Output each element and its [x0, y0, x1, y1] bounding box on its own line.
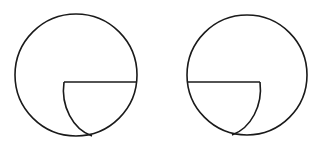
left-figure	[15, 14, 137, 136]
right-figure	[187, 15, 307, 135]
outer-circle	[187, 15, 307, 135]
inner-arc	[63, 82, 92, 136]
diagram-canvas	[0, 0, 323, 144]
outer-circle	[15, 14, 137, 136]
inner-arc	[232, 82, 260, 135]
